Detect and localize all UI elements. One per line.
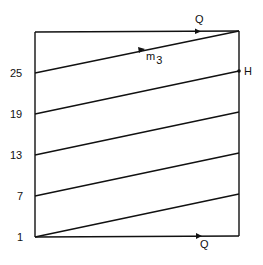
- h-label: H: [244, 65, 252, 77]
- slanted-line-7: [35, 153, 239, 196]
- axis-label-19: 19: [10, 108, 22, 120]
- top-arrow-icon: [195, 29, 201, 35]
- h-point-icon: [237, 69, 241, 73]
- top-q-label: Q: [195, 13, 204, 25]
- slanted-line-1: [35, 194, 239, 237]
- m3-label: m3: [146, 50, 162, 66]
- bottom-q-label: Q: [200, 238, 209, 250]
- diagram-canvas: 25 19 13 7 1 Q Q m3 H: [0, 0, 263, 265]
- top-edge: [35, 31, 239, 32]
- axis-label-25: 25: [10, 67, 22, 79]
- axis-label-13: 13: [10, 149, 22, 161]
- slanted-line-19: [35, 71, 239, 114]
- axis-label-7: 7: [17, 190, 23, 202]
- slanted-line-25: [35, 31, 239, 73]
- axis-label-1: 1: [17, 231, 23, 243]
- slanted-line-13: [35, 112, 239, 155]
- bottom-edge: [35, 236, 239, 237]
